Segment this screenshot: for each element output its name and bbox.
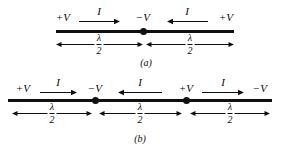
denominator-b-1: 2 — [50, 114, 55, 125]
denominator-b-2: 2 — [138, 114, 143, 125]
current-label-a-2: I — [185, 6, 189, 17]
lambda-symbol-a-1: λ — [97, 33, 102, 43]
current-arrow-right-b-3 — [202, 88, 244, 97]
lambda-symbol-a-2: λ — [188, 33, 193, 43]
current-arrow-left-b-2 — [118, 88, 162, 97]
lambda-symbol-b-2: λ — [138, 102, 143, 112]
panel-caption-a: (a) — [140, 58, 152, 68]
current-label-a-1: I — [97, 6, 101, 17]
voltage-label-b-4: −V — [253, 83, 268, 94]
half-wavelength-label-a-2: λ2 — [186, 33, 195, 56]
voltage-label-a-1: +V — [56, 12, 71, 23]
voltage-label-a-3: +V — [219, 12, 234, 23]
current-label-b-1: I — [56, 77, 60, 88]
half-wavelength-label-b-3: λ2 — [226, 102, 235, 125]
current-arrow-right-a-1 — [79, 17, 120, 26]
current-arrow-left-a-2 — [167, 17, 208, 26]
half-wavelength-label-b-1: λ2 — [48, 102, 57, 125]
half-wavelength-label-a-1: λ2 — [95, 33, 104, 56]
voltage-label-a-2: −V — [136, 12, 151, 23]
voltage-label-b-2: −V — [88, 83, 103, 94]
node-dot-b-1 — [92, 97, 99, 104]
lambda-symbol-b-1: λ — [50, 102, 55, 112]
panel-caption-b: (b) — [134, 134, 146, 144]
denominator-a-1: 2 — [97, 45, 102, 56]
half-wavelength-label-b-2: λ2 — [136, 102, 145, 125]
current-label-b-3: I — [221, 77, 225, 88]
voltage-label-b-3: +V — [179, 83, 194, 94]
node-dot-a-1 — [140, 28, 147, 35]
voltage-label-b-1: +V — [16, 83, 31, 94]
denominator-a-2: 2 — [188, 45, 193, 56]
denominator-b-3: 2 — [228, 114, 233, 125]
lambda-symbol-b-3: λ — [228, 102, 233, 112]
current-arrow-right-b-1 — [40, 88, 77, 97]
standing-wave-figure: +V−V+VII λ2 λ2(a)+V−V+V−VIII λ2 λ2 λ2(b) — [0, 0, 284, 150]
current-label-b-2: I — [138, 77, 142, 88]
node-dot-b-2 — [183, 97, 190, 104]
